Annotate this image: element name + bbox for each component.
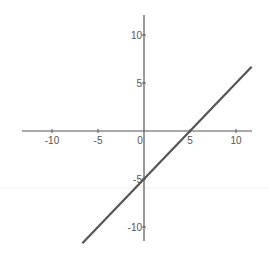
data-series <box>82 67 251 244</box>
x-tick-label: -5 <box>94 135 103 146</box>
y-tick-label: -10 <box>128 222 143 233</box>
x-tick-label: 10 <box>230 135 242 146</box>
coordinate-plane-chart: -10-50510105-5-10 <box>0 0 269 261</box>
x-tick-label: -10 <box>45 135 60 146</box>
y-tick-label: 5 <box>136 78 142 89</box>
x-tick-label: 5 <box>187 135 193 146</box>
x-tick-label: 0 <box>137 135 143 146</box>
line-y-equals-x-minus-5 <box>82 67 251 244</box>
y-tick-label: 10 <box>131 30 143 41</box>
axes <box>22 15 252 241</box>
